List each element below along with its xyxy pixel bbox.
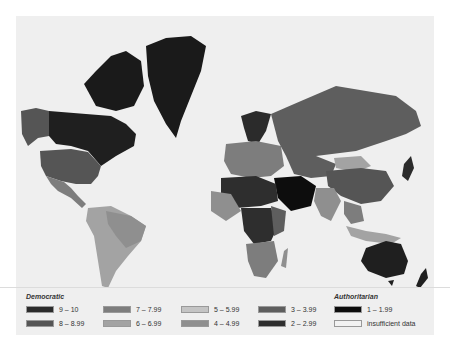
legend-swatch xyxy=(103,306,131,313)
legend-swatch xyxy=(334,306,362,313)
region-se-asia xyxy=(344,201,364,224)
legend-label: 1 – 1.99 xyxy=(367,306,392,313)
legend-label: 9 – 10 xyxy=(59,306,78,313)
legend-swatch xyxy=(103,320,131,327)
legend-item: 5 – 5.99 xyxy=(181,305,239,313)
legend-swatch xyxy=(258,320,286,327)
legend-swatch xyxy=(181,320,209,327)
region-arctic-islands xyxy=(84,51,144,111)
legend-label: 8 – 8.99 xyxy=(59,320,84,327)
divider-line xyxy=(0,287,450,288)
region-madagascar xyxy=(281,248,288,268)
legend-swatch xyxy=(26,320,54,327)
world-map xyxy=(16,16,434,288)
legend-swatch xyxy=(258,306,286,313)
legend-label: 4 – 4.99 xyxy=(214,320,239,327)
region-scandinavia xyxy=(241,111,271,144)
region-japan xyxy=(402,156,414,181)
legend-title-authoritarian: Authoritarian xyxy=(334,293,378,300)
legend-label: 2 – 2.99 xyxy=(291,320,316,327)
region-alaska xyxy=(21,108,49,146)
legend-label: 5 – 5.99 xyxy=(214,306,239,313)
legend-label: 7 – 7.99 xyxy=(136,306,161,313)
region-india xyxy=(314,188,341,221)
legend-item: 7 – 7.99 xyxy=(103,305,161,313)
region-russia xyxy=(271,86,421,156)
region-indonesia xyxy=(346,226,401,244)
legend-title-democratic: Democratic xyxy=(26,293,64,300)
legend-swatch xyxy=(181,306,209,313)
legend-item: 2 – 2.99 xyxy=(258,319,316,327)
legend-item: 4 – 4.99 xyxy=(181,319,239,327)
region-greenland xyxy=(146,36,206,138)
legend-item: 9 – 10 xyxy=(26,305,78,313)
legend-label: 3 – 3.99 xyxy=(291,306,316,313)
legend-swatch xyxy=(26,306,54,313)
region-middle-east xyxy=(274,176,316,211)
legend-swatch xyxy=(334,320,362,327)
region-new-zealand xyxy=(416,268,428,288)
legend-label: 6 – 6.99 xyxy=(136,320,161,327)
legend-item: 6 – 6.99 xyxy=(103,319,161,327)
legend-label: insufficient data xyxy=(367,320,416,327)
legend-item: 3 – 3.99 xyxy=(258,305,316,313)
region-australia xyxy=(361,241,408,278)
map-legend: Democratic Authoritarian 9 – 10 8 – 8.99… xyxy=(16,288,434,335)
region-europe xyxy=(224,141,284,178)
region-africa-south xyxy=(246,241,278,278)
legend-item: insufficient data xyxy=(334,319,416,327)
legend-item: 1 – 1.99 xyxy=(334,305,392,313)
legend-item: 8 – 8.99 xyxy=(26,319,84,327)
region-tasmania xyxy=(388,280,394,286)
